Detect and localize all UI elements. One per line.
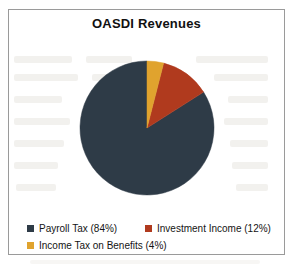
legend-row: Income Tax on Benefits (4%) — [27, 238, 277, 253]
legend-item-investment-income[interactable]: Investment Income (12%) — [145, 223, 271, 234]
legend-row: Payroll Tax (84%) Investment Income (12%… — [27, 221, 277, 236]
square-swatch-icon — [145, 225, 152, 232]
pie-slice-group — [80, 61, 214, 195]
pie-chart-svg — [72, 44, 224, 212]
legend-item-payroll-tax[interactable]: Payroll Tax (84%) — [27, 223, 145, 234]
chart-legend: Payroll Tax (84%) Investment Income (12%… — [27, 221, 277, 255]
page-title: OASDI Revenues — [0, 16, 293, 31]
legend-item-label: Investment Income (12%) — [157, 223, 271, 234]
legend-item-label: Payroll Tax (84%) — [39, 223, 117, 234]
square-swatch-icon — [27, 242, 34, 249]
legend-item-income-tax-on-benefits[interactable]: Income Tax on Benefits (4%) — [27, 240, 167, 251]
pie-chart — [72, 44, 224, 212]
square-swatch-icon — [27, 225, 34, 232]
legend-item-label: Income Tax on Benefits (4%) — [39, 240, 167, 251]
